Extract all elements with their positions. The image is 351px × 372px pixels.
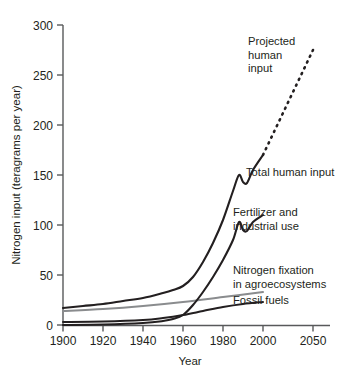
x-tick-label-1900: 1900 [50,334,77,348]
annotation-total-human-input: Total human input [246,166,335,178]
y-tick-label-250: 250 [33,69,53,83]
annotation-projected-line1: Projected [248,35,295,47]
y-tick-label-0: 0 [46,319,53,333]
annotation-projected-line2: human [248,49,282,61]
annotation-fixation-line2: in agroecosystems [233,278,327,290]
x-axis: 1900 1920 1940 1960 1980 2000 2050 Year [50,326,330,368]
x-tick-label-1940: 1940 [130,334,157,348]
annotation-projected-human-input: Projected human input [248,35,295,74]
annotation-fertilizer-industrial-use: Fertilizer and industrial use [233,206,299,232]
y-tick-label-50: 50 [40,269,54,283]
annotation-fertilizer-line1: Fertilizer and [233,206,298,218]
y-tick-label-200: 200 [33,119,53,133]
y-tick-label-100: 100 [33,219,53,233]
x-tick-label-1980: 1980 [210,334,237,348]
x-tick-label-1920: 1920 [90,334,117,348]
x-tick-label-2000: 2000 [250,334,277,348]
annotation-projected-line3: input [248,62,273,74]
nitrogen-input-chart: 300 250 200 150 100 50 0 Nitrogen input … [0,0,351,372]
x-tick-label-1960: 1960 [170,334,197,348]
annotation-fossil-fuels: Fossil fuels [233,294,289,306]
chart-canvas: 300 250 200 150 100 50 0 Nitrogen input … [0,0,351,372]
annotation-nitrogen-fixation: Nitrogen fixation in agroecosystems [233,264,327,290]
annotation-fertilizer-line2: industrial use [233,220,299,232]
x-tick-label-2050: 2050 [300,334,327,348]
annotation-fixation-line1: Nitrogen fixation [233,264,314,276]
y-tick-label-150: 150 [33,169,53,183]
x-axis-title: Year [178,355,201,367]
y-axis: 300 250 200 150 100 50 0 Nitrogen input … [10,19,63,333]
y-tick-label-300: 300 [33,19,53,33]
y-axis-title: Nitrogen input (teragrams per year) [10,85,22,265]
